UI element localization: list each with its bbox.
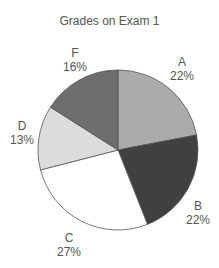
label-f: F 16% bbox=[55, 46, 95, 74]
label-a: A 22% bbox=[162, 55, 202, 83]
label-c: C 27% bbox=[49, 231, 89, 259]
label-b: B 22% bbox=[178, 199, 218, 227]
label-d: D 13% bbox=[2, 119, 42, 147]
